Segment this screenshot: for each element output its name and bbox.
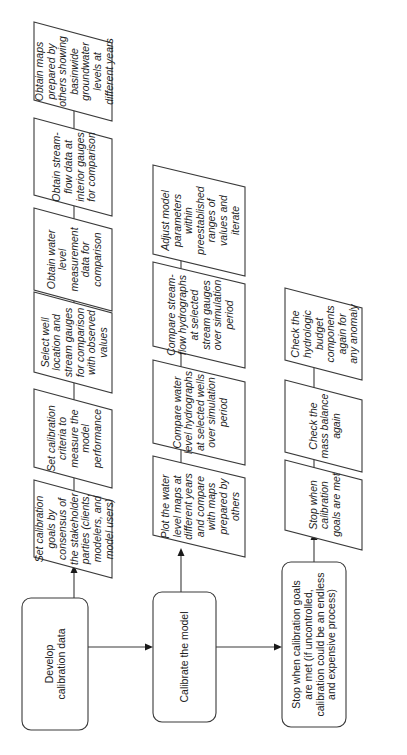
text-line: comparison <box>91 232 103 286</box>
text-line: for comparison <box>85 132 97 202</box>
text-line: calibration could be an endless <box>314 572 326 716</box>
text-line: prepared by <box>45 43 57 101</box>
text-line: others showing <box>56 36 68 107</box>
svg-text:Obtain waterlevelmeasurementda: Obtain waterlevelmeasurementdata forcomp… <box>45 226 103 291</box>
text-line: interior gauges <box>74 132 86 202</box>
text-line: Compare stream- <box>165 274 177 356</box>
text-line: Adjust model <box>159 189 171 251</box>
text-line: modelers, and <box>91 495 103 563</box>
text-line: goals are met <box>330 472 342 537</box>
text-line: and compare <box>194 476 206 537</box>
text-line: level maps at <box>171 474 183 537</box>
text-line: preestablished <box>194 185 206 255</box>
text-line: again for <box>336 313 348 354</box>
text-line: hydrologic <box>301 309 313 358</box>
text-line: are met (if uncontrolled, <box>302 589 314 699</box>
text-line: Stop when calibration goals <box>290 580 302 708</box>
text-line: Select well <box>39 317 51 368</box>
text-line: level hydrographs <box>182 370 194 454</box>
text-line: at selected wells <box>194 373 206 451</box>
text-line: parameters <box>171 193 183 248</box>
text-line: Stop when <box>307 480 319 530</box>
calibration-flowchart: Developcalibration dataCalibrate the mod… <box>0 0 407 755</box>
develop_steps-step-4-label: Obtain waterlevelmeasurementdata forcomp… <box>45 226 103 291</box>
main-box-stop_main-label: Stop when calibration goalsare met (if u… <box>290 572 337 716</box>
text-line: within <box>182 207 194 234</box>
text-line: components <box>324 305 336 363</box>
text-line: others <box>229 491 241 521</box>
svg-text:Calibrate the model: Calibrate the model <box>178 611 190 702</box>
stop_steps-step-1-label: Stop whencalibrationgoals are met <box>307 472 342 537</box>
text-line: basinwide <box>68 48 80 95</box>
text-line: levels at <box>91 51 103 91</box>
text-line: iterate <box>229 206 241 235</box>
svg-text:Plot the waterlevel maps atdif: Plot the waterlevel maps atdifferent yea… <box>159 472 241 539</box>
text-line: level <box>56 248 68 270</box>
text-line: again <box>330 413 342 439</box>
text-line: calibration data <box>55 628 67 699</box>
main-box-calibrate-label: Calibrate the model <box>178 611 190 702</box>
text-line: Obtain water <box>45 229 57 289</box>
text-line: Calibrate the model <box>178 611 190 702</box>
text-line: different years <box>182 472 194 539</box>
develop_steps-step-5-label: Obtain stream-flow data atinterior gauge… <box>50 132 97 202</box>
arrowhead-right-icon <box>274 644 282 651</box>
text-line: Compare water <box>171 376 183 448</box>
text-line: over simulation <box>211 280 223 351</box>
text-line: Check the <box>289 310 301 357</box>
text-line: ranges of <box>205 198 217 243</box>
svg-text:Adjust modelparameterswithinpr: Adjust modelparameterswithinpreestablish… <box>159 185 241 255</box>
text-line: criteria to <box>56 417 68 460</box>
text-line: measure the <box>68 409 80 468</box>
text-line: with observed <box>85 309 97 375</box>
text-line: Develop <box>43 645 55 684</box>
text-line: over simulation <box>205 377 217 448</box>
stop_steps-step-3-label: Check thehydrologicbudgetcomponentsagain… <box>289 303 359 363</box>
text-line: model <box>79 424 91 453</box>
text-line: model users) <box>103 499 115 560</box>
text-line: different years <box>103 37 115 104</box>
text-line: groundwater <box>79 42 91 101</box>
text-line: Set calibration <box>33 496 45 563</box>
calibrate_steps-step-4-label: Adjust modelparameterswithinpreestablish… <box>159 185 241 255</box>
text-line: and expensive process) <box>325 589 337 700</box>
text-line: mass balance <box>318 393 330 458</box>
svg-text:Stop whencalibrationgoals are: Stop whencalibrationgoals are met <box>307 472 342 537</box>
svg-text:Set calibrationcriteria tomeas: Set calibrationcriteria tomeasure themod… <box>45 405 103 472</box>
text-line: any anomaly <box>347 303 359 363</box>
text-line: data for <box>79 241 91 277</box>
svg-text:Check thehydrologicbudgetcompo: Check thehydrologicbudgetcomponentsagain… <box>289 303 359 363</box>
text-line: period <box>217 397 229 428</box>
text-line: Set calibration <box>45 405 57 472</box>
text-line: prepared by <box>217 478 229 536</box>
text-line: stream gauges <box>200 280 212 350</box>
text-line: location and <box>50 313 62 371</box>
text-line: budget <box>313 317 325 350</box>
text-line: flow data at <box>62 139 74 194</box>
svg-text:Stop when calibration goalsare: Stop when calibration goalsare met (if u… <box>290 572 337 716</box>
text-line: calibration <box>318 481 330 529</box>
text-line: parties (clients, <box>79 494 91 566</box>
text-line: Obtain stream- <box>50 132 62 202</box>
text-line: goals by <box>45 509 57 549</box>
text-line: flow hydrographs <box>176 274 188 355</box>
text-line: at selected <box>188 288 200 340</box>
text-line: Check the <box>307 402 319 449</box>
calibrate_steps-step-1-label: Plot the waterlevel maps atdifferent yea… <box>159 472 241 539</box>
text-line: period <box>223 299 235 330</box>
text-line: Plot the water <box>159 474 171 539</box>
arrowhead-right-icon <box>145 644 153 651</box>
text-line: stream gauges <box>62 307 74 377</box>
text-line: for comparison <box>74 308 86 378</box>
develop_steps-step-2-label: Set calibrationcriteria tomeasure themod… <box>45 405 103 472</box>
arrowhead-up-icon <box>178 548 185 556</box>
text-line: measurement <box>68 226 80 291</box>
text-line: with maps <box>205 482 217 530</box>
text-line: values and <box>217 194 229 246</box>
text-line: the stakeholder <box>68 493 80 565</box>
text-line: Obtain maps <box>33 41 45 101</box>
svg-text:Obtain stream-flow data atinte: Obtain stream-flow data atinterior gauge… <box>50 132 97 202</box>
text-line: consensus of <box>56 497 68 560</box>
text-line: values <box>97 327 109 358</box>
text-line: performance <box>91 409 103 469</box>
